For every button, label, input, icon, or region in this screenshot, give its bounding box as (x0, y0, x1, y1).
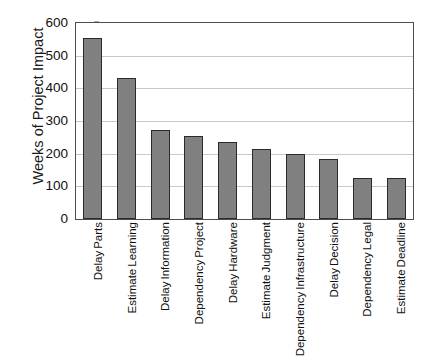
bar[interactable] (218, 142, 237, 219)
y-tick-label: 500 (24, 47, 68, 62)
x-axis-label: DependencyProject (193, 222, 206, 324)
bar-slot (143, 23, 177, 219)
x-axis-label-line: Judgment (260, 222, 273, 273)
x-axis-label: DependencyInfrastructure (294, 222, 307, 356)
bar-slot (211, 23, 245, 219)
x-label-slot: DelayDecision (311, 222, 345, 306)
x-label-slot: DelayParts (75, 222, 109, 306)
x-axis-label-line: Delay (92, 251, 105, 280)
x-label-slot: DelayHardware (210, 222, 244, 306)
x-axis-label-line: Dependency (294, 292, 307, 356)
x-label-slot: EstimateLearning (109, 222, 143, 306)
y-tick-label: 200 (24, 145, 68, 160)
x-axis-category-labels: DelayPartsEstimateLearningDelayInformati… (75, 222, 412, 306)
y-axis-tick-labels: 6005004003002001000 (24, 14, 68, 226)
x-axis-label-line: Deadline (395, 222, 408, 267)
bar[interactable] (286, 154, 305, 219)
x-axis-label-line: Delay (159, 282, 172, 311)
x-axis-label: DelayInformation (159, 222, 172, 311)
bar[interactable] (353, 178, 372, 219)
bar[interactable] (252, 149, 271, 219)
x-axis-label-line: Information (159, 222, 172, 280)
x-label-slot: EstimateJudgment (244, 222, 278, 306)
bar-slot (312, 23, 346, 219)
x-label-slot: DependencyInfrastructure (277, 222, 311, 306)
bar[interactable] (83, 38, 102, 219)
x-label-slot: EstimateDeadline (378, 222, 412, 306)
x-axis-label-line: Legal (361, 222, 374, 250)
x-axis-label-line: Project (193, 222, 206, 258)
bar-slot (245, 23, 279, 219)
x-axis-label-line: Estimate (395, 269, 408, 314)
x-axis-label-line: Decision (328, 222, 341, 266)
y-tick-label: 600 (24, 15, 68, 30)
bar-slot (177, 23, 211, 219)
x-label-slot: DependencyProject (176, 222, 210, 306)
y-tick-label: 100 (24, 178, 68, 193)
x-axis-label: DependencyLegal (361, 222, 374, 317)
x-axis-label-line: Infrastructure (294, 222, 307, 290)
bar[interactable] (387, 178, 406, 219)
y-tick-label: 300 (24, 113, 68, 128)
x-axis-label-line: Hardware (227, 222, 240, 272)
bar-slot (76, 23, 110, 219)
y-tick-label: 400 (24, 80, 68, 95)
x-axis-label: DelayDecision (328, 222, 341, 298)
x-axis-label: EstimateDeadline (395, 222, 408, 314)
x-axis-label: EstimateLearning (126, 222, 139, 314)
x-axis-label: DelayHardware (227, 222, 240, 303)
x-axis-label-line: Dependency (361, 252, 374, 317)
x-axis-label-line: Learning (126, 222, 139, 267)
bar-slot (278, 23, 312, 219)
x-axis-label-line: Estimate (126, 269, 139, 314)
x-axis-label: EstimateJudgment (260, 222, 273, 319)
bar[interactable] (184, 136, 203, 219)
x-axis-label-line: Parts (92, 222, 105, 249)
bars-series (76, 23, 413, 219)
x-axis-label: DelayParts (92, 222, 105, 280)
x-axis-label-line: Delay (328, 268, 341, 297)
y-tick-label: 0 (24, 211, 68, 226)
x-axis-label-line: Delay (227, 274, 240, 303)
x-axis-label-line: Dependency (193, 260, 206, 325)
bar[interactable] (151, 130, 170, 219)
x-label-slot: DelayInformation (142, 222, 176, 306)
bar[interactable] (117, 78, 136, 219)
bar-slot (379, 23, 413, 219)
bar-slot (346, 23, 380, 219)
plot-area (75, 22, 414, 220)
x-axis-label-line: Estimate (260, 275, 273, 320)
x-label-slot: DependencyLegal (345, 222, 379, 306)
bar[interactable] (319, 159, 338, 219)
bar-slot (110, 23, 144, 219)
